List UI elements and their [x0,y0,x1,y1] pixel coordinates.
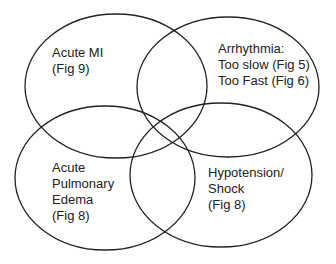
label-arrhythmia: Arrhythmia: Too slow (Fig 5) Too Fast (F… [218,41,310,89]
label-acute-mi: Acute MI (Fig 9) [52,45,103,77]
label-line: (Fig 8) [52,208,114,224]
label-line: Edema [52,192,114,208]
label-line: Arrhythmia: [218,41,310,57]
venn-ellipses [0,0,336,264]
label-line: Shock [208,181,284,197]
label-line: (Fig 9) [52,61,103,77]
label-line: Pulmonary [52,176,114,192]
label-acute-pulmonary-edema: Acute Pulmonary Edema (Fig 8) [52,160,114,224]
label-hypotension-shock: Hypotension/ Shock (Fig 8) [208,165,284,213]
ellipse-acute-mi [25,14,207,158]
label-line: Too slow (Fig 5) [218,57,310,73]
label-line: Acute [52,160,114,176]
venn-diagram: Acute MI (Fig 9) Arrhythmia: Too slow (F… [0,0,336,264]
label-line: Too Fast (Fig 6) [218,73,310,89]
label-line: Hypotension/ [208,165,284,181]
label-line: Acute MI [52,45,103,61]
label-line: (Fig 8) [208,197,284,213]
